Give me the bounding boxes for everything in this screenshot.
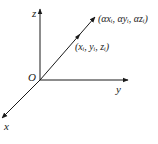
y-axis-label: y	[116, 84, 121, 95]
x-axis	[2, 80, 40, 118]
coordinate-diagram: z y x O (xᵢ, yᵢ, zᵢ) (αxᵢ, αyᵢ, αzᵢ)	[0, 0, 158, 144]
x-axis-label: x	[4, 121, 9, 132]
origin-label: O	[28, 72, 36, 83]
z-axis-label: z	[32, 8, 36, 19]
scaled-point-label: (αxᵢ, αyᵢ, αzᵢ)	[98, 14, 148, 24]
point-label: (xᵢ, yᵢ, zᵢ)	[75, 42, 109, 52]
